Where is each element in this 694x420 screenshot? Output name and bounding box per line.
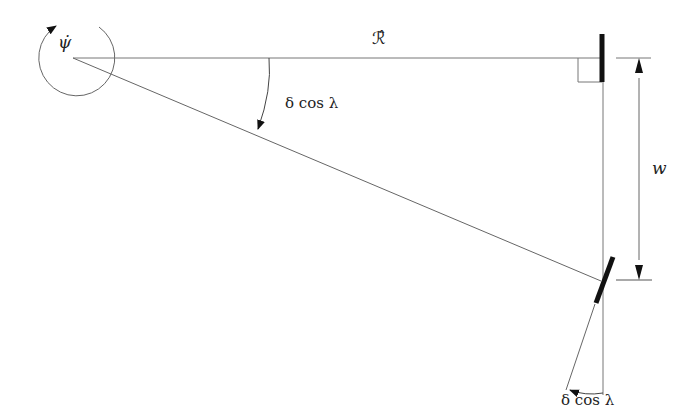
diagram-graphics bbox=[0, 0, 694, 420]
diagram-canvas: ψ̇ ℛ̂ δ cos λ w δ cos λ bbox=[0, 0, 694, 420]
top-angle-label: δ cos λ bbox=[285, 96, 338, 111]
dimension-arrow-up-icon bbox=[635, 58, 643, 73]
rotation-circle-icon bbox=[39, 26, 115, 96]
tilted-normal-line bbox=[566, 304, 595, 390]
dimension-arrow-down-icon bbox=[635, 265, 643, 280]
top-angle-arc bbox=[258, 58, 270, 129]
psi-dot-label: ψ̇ bbox=[58, 34, 71, 51]
slanted-line bbox=[73, 58, 601, 281]
width-label: w bbox=[652, 160, 667, 177]
r-hat-label: ℛ̂ bbox=[372, 30, 386, 47]
bottom-angle-label: δ cos λ bbox=[561, 393, 614, 408]
right-angle-marker bbox=[578, 58, 602, 82]
